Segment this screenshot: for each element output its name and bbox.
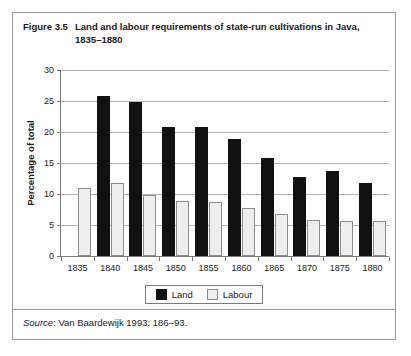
legend-label-land: Land xyxy=(172,289,193,300)
source-divider xyxy=(13,309,395,310)
y-tick-label: 5 xyxy=(49,220,54,230)
x-tick-label: 1880 xyxy=(363,263,383,273)
bar-land xyxy=(293,177,306,256)
bar-labour xyxy=(242,208,255,256)
x-tick-mark xyxy=(258,257,259,261)
bar-land xyxy=(228,139,241,256)
bar-labour xyxy=(176,201,189,256)
x-tick-label: 1860 xyxy=(231,263,251,273)
bar-land xyxy=(129,102,142,256)
legend-entry-land: Land xyxy=(156,289,193,300)
y-axis-title: Percentage of total xyxy=(25,70,39,256)
bar-labour xyxy=(275,214,288,256)
x-tick-mark xyxy=(94,257,95,261)
source-prefix: Source xyxy=(23,317,53,328)
y-tick-label: 20 xyxy=(44,127,54,137)
bar-group xyxy=(61,70,94,256)
chart-legend: Land Labour xyxy=(13,285,395,304)
x-tick-label: 1835 xyxy=(67,263,87,273)
source-text: : Van Baardewijk 1993: 186–93. xyxy=(53,317,187,328)
figure-caption-text: Land and labour requirements of state-ru… xyxy=(75,21,375,47)
chart-plot-area: 051015202530 183518401845185018551860186… xyxy=(60,70,389,257)
bar-group xyxy=(192,70,225,256)
y-tick-label: 25 xyxy=(44,96,54,106)
y-tick-label: 30 xyxy=(44,65,54,75)
legend-label-labour: Labour xyxy=(223,289,253,300)
source-note: Source: Van Baardewijk 1993: 186–93. xyxy=(23,317,187,328)
bar-group xyxy=(291,70,324,256)
bar-labour xyxy=(307,220,320,256)
bar-group xyxy=(323,70,356,256)
x-axis-ticks: 1835184018451850185518601865187018751880 xyxy=(61,257,389,279)
x-tick-mark xyxy=(225,257,226,261)
y-tick-label: 15 xyxy=(44,158,54,168)
x-tick-label: 1875 xyxy=(330,263,350,273)
x-tick-label: 1850 xyxy=(166,263,186,273)
bar-labour xyxy=(373,221,386,256)
figure-frame: Figure 3.5Land and labour requirements o… xyxy=(12,12,396,340)
x-tick-mark xyxy=(323,257,324,261)
bar-labour xyxy=(340,221,353,256)
legend-swatch-labour-icon xyxy=(207,289,218,300)
figure-label: Figure 3.5 xyxy=(23,21,75,34)
x-tick-label: 1845 xyxy=(133,263,153,273)
legend-box: Land Labour xyxy=(145,285,264,304)
figure-caption: Figure 3.5Land and labour requirements o… xyxy=(23,21,385,47)
bar-land xyxy=(261,158,274,256)
x-tick-label: 1855 xyxy=(199,263,219,273)
bar-group xyxy=(94,70,127,256)
x-tick-mark xyxy=(61,257,62,261)
y-tick-label: 10 xyxy=(44,189,54,199)
x-tick-label: 1865 xyxy=(264,263,284,273)
x-tick-mark xyxy=(389,257,390,261)
bar-labour xyxy=(143,195,156,256)
bar-land xyxy=(359,183,372,256)
bar-land xyxy=(162,127,175,256)
bar-labour xyxy=(78,188,91,256)
x-tick-mark xyxy=(159,257,160,261)
x-tick-mark xyxy=(356,257,357,261)
x-tick-label: 1840 xyxy=(100,263,120,273)
bar-labour xyxy=(209,202,222,256)
bar-labour xyxy=(111,183,124,256)
bar-group xyxy=(159,70,192,256)
legend-entry-labour: Labour xyxy=(207,289,253,300)
bar-group xyxy=(356,70,389,256)
bar-group xyxy=(258,70,291,256)
bar-land xyxy=(326,171,339,256)
y-tick-label: 0 xyxy=(49,251,54,261)
x-tick-label: 1870 xyxy=(297,263,317,273)
x-tick-mark xyxy=(291,257,292,261)
x-tick-mark xyxy=(192,257,193,261)
bar-group xyxy=(225,70,258,256)
x-tick-mark xyxy=(127,257,128,261)
bar-land xyxy=(97,96,110,256)
bars-layer xyxy=(61,70,389,256)
bar-group xyxy=(127,70,160,256)
bar-land xyxy=(195,127,208,256)
legend-swatch-land-icon xyxy=(156,289,167,300)
